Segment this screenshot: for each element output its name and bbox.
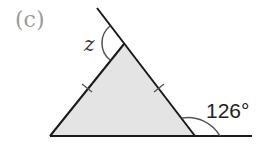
isosceles-triangle: [50, 44, 195, 136]
triangle-diagram: (c) z 126°: [0, 0, 269, 154]
angle-label-126: 126°: [206, 99, 249, 122]
angle-arc-z: [102, 26, 110, 60]
angle-label-z: z: [83, 32, 95, 56]
part-label: (c): [15, 7, 45, 32]
